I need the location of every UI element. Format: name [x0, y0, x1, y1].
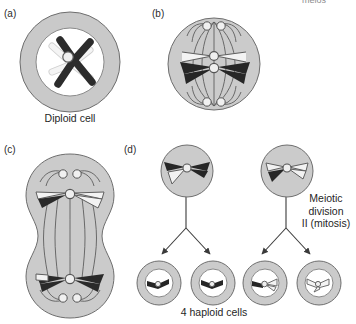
meiotic-division-line-2: division — [296, 205, 356, 218]
meiotic-division-line-3: II (mitosis) — [296, 217, 356, 230]
centromere-lower — [65, 274, 74, 283]
panel-b-cell — [166, 12, 262, 116]
arrow-right-2 — [286, 228, 310, 254]
centriole-bottom-left — [203, 98, 211, 106]
centriole-top-left — [203, 22, 211, 30]
centromere-dark — [209, 63, 218, 72]
cropped-header-text: meios — [302, 0, 354, 5]
centriole-bottom-right — [73, 294, 81, 302]
daughter-cell-left — [158, 142, 216, 200]
centriole-bottom-left — [59, 294, 67, 302]
centriole-top-left — [59, 170, 67, 178]
haploid-cell-1 — [134, 258, 184, 308]
panel-c-letter: (c) — [4, 144, 16, 155]
centriole-bottom-right — [217, 98, 225, 106]
centromere-upper — [65, 189, 74, 198]
panel-a-caption: Diploid cell — [16, 112, 124, 124]
centromere — [209, 281, 214, 286]
haploid-cell-4 — [294, 258, 344, 308]
arrow-left-1 — [162, 228, 186, 254]
haploid-cell-3 — [240, 258, 290, 308]
centromere-light — [210, 52, 219, 61]
panel-b-letter: (b) — [152, 8, 164, 19]
meiotic-division-label: Meiotic division II (mitosis) — [296, 192, 356, 230]
meiotic-division-line-1: Meiotic — [296, 192, 356, 205]
panel-c-cell — [18, 152, 122, 320]
centriole-top-right — [217, 22, 225, 30]
arrow-right-1 — [262, 228, 286, 254]
meiosis-figure: meios (a) Diploid cell (b) — [0, 0, 356, 324]
centromere — [283, 164, 291, 172]
centromere — [155, 281, 160, 286]
panel-a-letter: (a) — [4, 8, 16, 19]
centromere — [183, 164, 191, 172]
panel-d-caption: 4 haploid cells — [134, 306, 294, 318]
centromere — [315, 281, 320, 286]
chiasma-node — [63, 52, 73, 62]
arrow-left-2 — [186, 228, 210, 254]
panel-a-cell — [16, 10, 124, 114]
centromere — [262, 281, 268, 287]
haploid-cell-2 — [188, 258, 238, 308]
centriole-top-right — [73, 170, 81, 178]
